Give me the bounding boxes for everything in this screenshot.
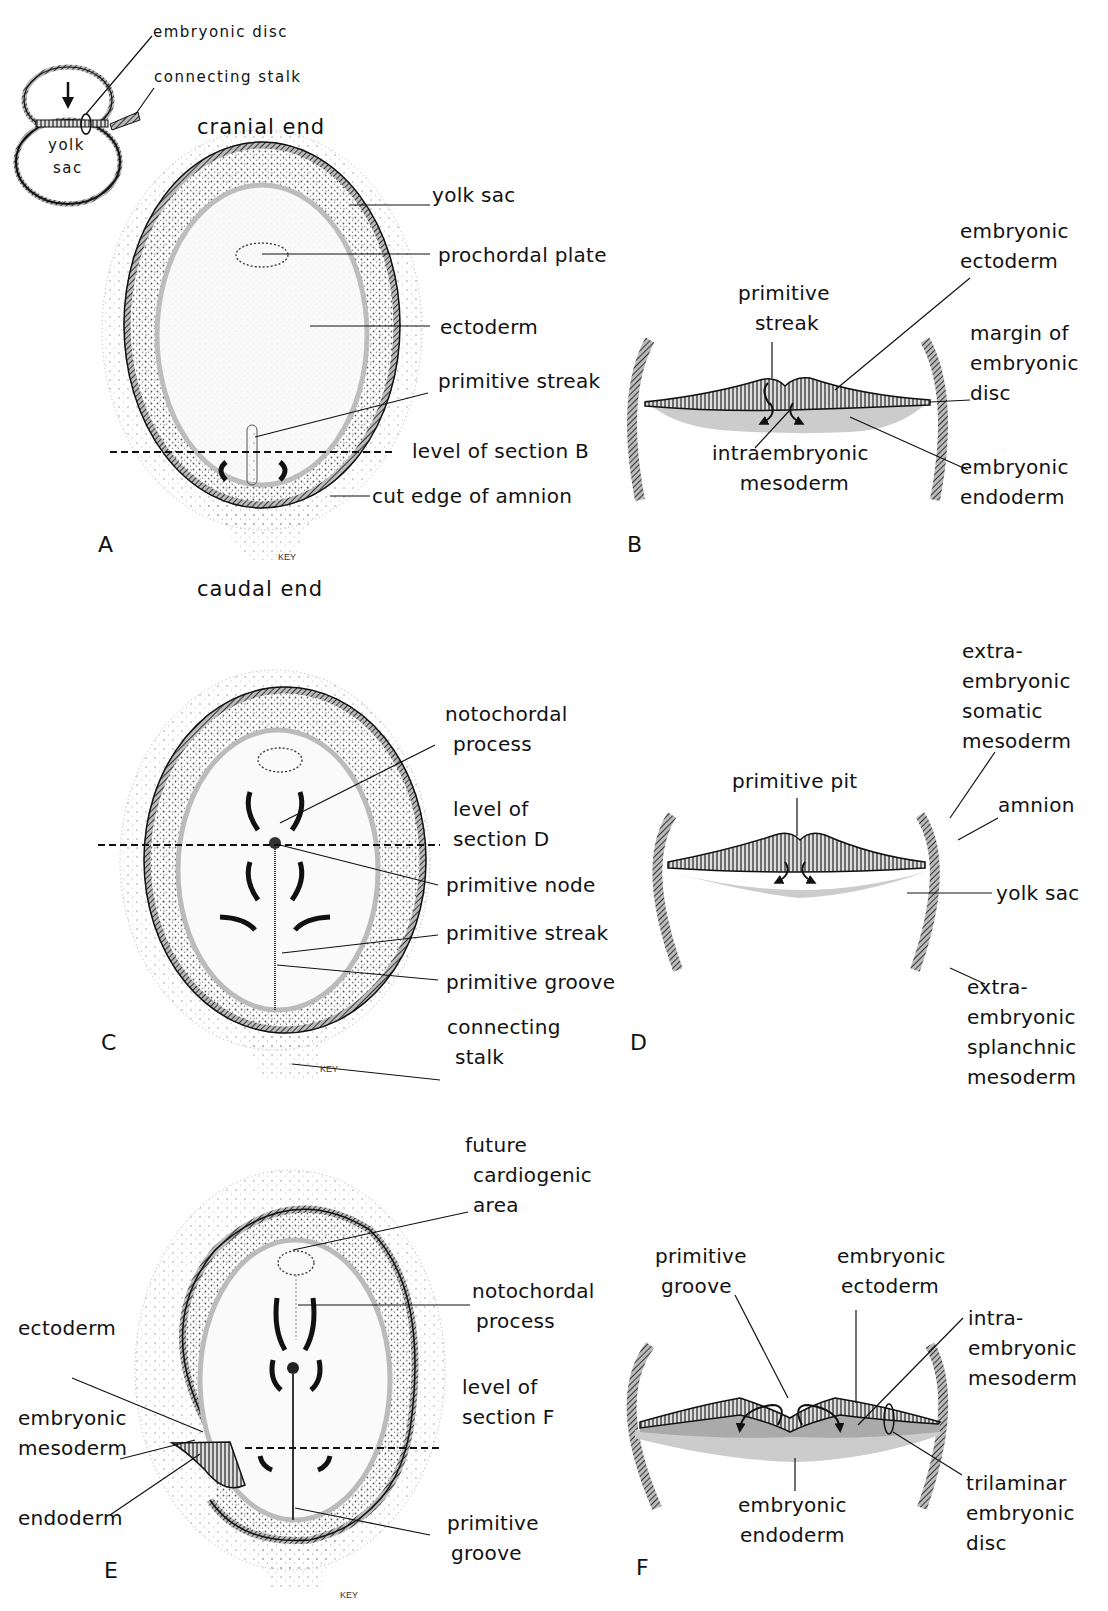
panel-e-label-ectoderm: ectoderm: [18, 1313, 116, 1343]
panel-c-label-primitive-streak: primitive streak: [446, 918, 608, 948]
panel-b-label-primitive-streak: primitive streak: [738, 278, 830, 338]
panel-d-label-extraembryonic-somatic-mesoderm: extra- embryonic somatic mesoderm: [962, 636, 1071, 756]
panel-a-label-level-section-b: level of section B: [412, 436, 589, 466]
panel-f-label-intraembryonic-mesoderm: intra- embryonic mesoderm: [968, 1303, 1077, 1393]
panel-c-art: KEY: [98, 670, 440, 1080]
inset-label-yolk: yolk: [48, 133, 85, 157]
panel-e-art: KEY: [72, 1170, 470, 1600]
panel-d-label-extraembryonic-splanchnic-mesoderm: extra- embryonic splanchnic mesoderm: [967, 972, 1077, 1092]
panel-a-label-ectoderm: ectoderm: [440, 312, 538, 342]
panel-c-label-primitive-groove: primitive groove: [446, 967, 615, 997]
panel-f-art: [632, 1295, 963, 1508]
panel-a-label-cut-edge-amnion: cut edge of amnion: [372, 481, 572, 511]
panel-f-label-primitive-groove: primitive groove: [655, 1241, 747, 1301]
inset-label-sac: sac: [53, 156, 83, 180]
panel-a-label-primitive-streak: primitive streak: [438, 366, 600, 396]
inset-diagram: [16, 36, 154, 204]
panel-e-label-level-section-f: level of section F: [462, 1372, 555, 1432]
panel-e-letter: E: [104, 1558, 118, 1583]
panel-c-label-primitive-node: primitive node: [446, 870, 596, 900]
panel-a-signature: KEY: [278, 552, 296, 562]
panel-a-cranial-end: cranial end: [197, 112, 325, 142]
panel-a-label-prochordal-plate: prochordal plate: [438, 240, 607, 270]
panel-c-letter: C: [101, 1030, 116, 1055]
inset-label-connecting-stalk: connecting stalk: [154, 65, 302, 89]
panel-e-label-endoderm: endoderm: [18, 1503, 123, 1533]
panel-d-label-primitive-pit: primitive pit: [732, 766, 857, 796]
panel-c-label-connecting-stalk: connecting stalk: [447, 1012, 561, 1072]
panel-c-label-level-section-d: level of section D: [453, 794, 550, 854]
panel-f-label-trilaminar-embryonic-disc: trilaminar embryonic disc: [966, 1468, 1075, 1558]
panel-b-letter: B: [627, 532, 642, 557]
panel-f-letter: F: [636, 1555, 649, 1580]
panel-e-label-primitive-groove: primitive groove: [447, 1508, 539, 1568]
panel-e-label-notochordal-process: notochordal process: [472, 1276, 595, 1336]
panel-e-signature: KEY: [340, 1590, 358, 1600]
panel-f-label-embryonic-endoderm: embryonic endoderm: [738, 1490, 847, 1550]
panel-b-label-embryonic-endoderm: embryonic endoderm: [960, 452, 1069, 512]
panel-a-caudal-end: caudal end: [197, 574, 323, 604]
panel-d-label-amnion: amnion: [998, 790, 1075, 820]
panel-c-label-notochordal-process: notochordal process: [445, 699, 568, 759]
panel-e-label-embryonic-mesoderm: embryonic mesoderm: [18, 1403, 127, 1463]
inset-label-embryonic-disc: embryonic disc: [153, 20, 288, 44]
panel-d-letter: D: [630, 1030, 647, 1055]
panel-f-label-embryonic-ectoderm: embryonic ectoderm: [837, 1241, 946, 1301]
panel-a-label-yolk-sac: yolk sac: [432, 180, 516, 210]
panel-d-label-yolk-sac: yolk sac: [996, 878, 1080, 908]
panel-b-label-intraembryonic-mesoderm: intraembryonic mesoderm: [712, 438, 869, 498]
panel-b-label-embryonic-ectoderm: embryonic ectoderm: [960, 216, 1069, 276]
panel-b-label-margin-embryonic-disc: margin of embryonic disc: [970, 318, 1079, 408]
panel-e-label-future-cardiogenic-area: future cardiogenic area: [465, 1130, 592, 1220]
panel-a-letter: A: [98, 532, 113, 557]
panel-c-signature: KEY: [320, 1064, 338, 1074]
